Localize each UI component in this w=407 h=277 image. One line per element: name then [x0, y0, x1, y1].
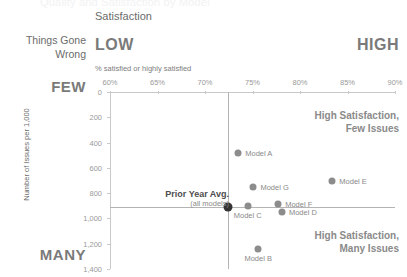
- y-tick: [107, 168, 110, 169]
- y-tick: [107, 269, 110, 270]
- reference-line-vertical: [228, 92, 229, 269]
- x-tick: [253, 91, 254, 94]
- high-label: HIGH: [357, 36, 399, 54]
- x-tick-label: 80%: [292, 78, 307, 87]
- data-point-label: Model C: [234, 211, 262, 220]
- data-point-label: Model B: [244, 254, 272, 263]
- prior-year-avg-sublabel: (all models): [165, 199, 229, 208]
- y-tick-label: 400: [89, 138, 102, 147]
- tgw-line-1: Things Gone: [0, 33, 86, 47]
- x-tick: [300, 91, 301, 94]
- x-axis-label: % satisfied or highly satisfied: [95, 64, 191, 73]
- x-tick-label: 75%: [245, 78, 260, 87]
- y-tick: [107, 218, 110, 219]
- quad-tr-line-1: High Satisfaction,: [315, 109, 399, 122]
- data-point-label: Model G: [260, 182, 288, 191]
- y-tick-label: 1,400: [83, 265, 102, 274]
- y-tick-label: 200: [89, 113, 102, 122]
- y-tick: [107, 143, 110, 144]
- data-point[interactable]: [275, 200, 282, 207]
- y-tick: [107, 92, 110, 93]
- y-tick: [107, 117, 110, 118]
- y-tick-label: 1,200: [83, 239, 102, 248]
- quad-br-line-1: High Satisfaction,: [315, 229, 399, 242]
- prior-year-avg-label: Prior Year Avg.: [165, 189, 229, 199]
- data-point-label: Model A: [245, 148, 272, 157]
- y-tick: [107, 244, 110, 245]
- quad-tr-line-2: Few Issues: [315, 122, 399, 135]
- low-label: LOW: [95, 36, 134, 54]
- y-axis-line: [110, 92, 111, 269]
- quad-br-line-2: Many Issues: [315, 242, 399, 255]
- y-tick-label: 800: [89, 189, 102, 198]
- data-point[interactable]: [329, 178, 336, 185]
- page-title: Quality and Satisfaction by Model: [40, 0, 210, 8]
- x-tick: [205, 91, 206, 94]
- few-label: FEW: [0, 78, 86, 95]
- satisfaction-axis-heading: Satisfaction: [95, 10, 152, 22]
- x-tick-label: 70%: [197, 78, 212, 87]
- x-tick-label: 60%: [102, 78, 117, 87]
- data-point-label: Model D: [289, 208, 317, 217]
- x-tick-label: 85%: [340, 78, 355, 87]
- y-tick: [107, 193, 110, 194]
- tgw-line-2: Wrong: [0, 47, 86, 61]
- quadrant-label-high-satisfaction-many-issues: High Satisfaction, Many Issues: [315, 229, 399, 255]
- many-label: MANY: [0, 246, 86, 263]
- x-tick: [110, 91, 111, 94]
- y-tick-label: 600: [89, 163, 102, 172]
- data-point[interactable]: [255, 245, 262, 252]
- data-point[interactable]: [235, 149, 242, 156]
- data-point-label: Model E: [339, 177, 367, 186]
- chart-screenshot: Quality and Satisfaction by Model Satisf…: [0, 0, 407, 277]
- x-tick-label: 65%: [150, 78, 165, 87]
- data-point[interactable]: [278, 209, 285, 216]
- x-tick: [348, 91, 349, 94]
- reference-line-horizontal: [110, 207, 395, 208]
- y-tick-label: 0: [98, 88, 102, 97]
- data-point[interactable]: [244, 202, 251, 209]
- quadrant-label-high-satisfaction-few-issues: High Satisfaction, Few Issues: [315, 109, 399, 135]
- things-gone-wrong-heading: Things Gone Wrong: [0, 33, 86, 61]
- y-tick-label: 1,000: [83, 214, 102, 223]
- y-axis-label: Number of Issues per 1,000: [22, 80, 31, 230]
- prior-year-avg-annotation: Prior Year Avg. (all models): [165, 189, 229, 208]
- x-tick: [395, 91, 396, 94]
- x-tick-label: 90%: [387, 78, 402, 87]
- data-point[interactable]: [250, 183, 257, 190]
- x-tick: [158, 91, 159, 94]
